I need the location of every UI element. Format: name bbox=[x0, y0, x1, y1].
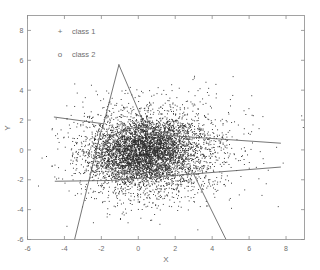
data-point bbox=[145, 193, 146, 194]
data-point bbox=[160, 146, 161, 147]
data-point bbox=[167, 159, 168, 160]
data-point bbox=[181, 197, 182, 198]
data-point bbox=[202, 171, 203, 172]
data-point bbox=[137, 115, 138, 116]
data-point bbox=[156, 181, 157, 182]
data-point bbox=[141, 147, 142, 148]
data-point bbox=[117, 188, 118, 189]
data-point bbox=[115, 178, 116, 179]
data-point bbox=[131, 113, 132, 114]
data-point bbox=[201, 168, 202, 169]
data-point bbox=[160, 139, 161, 140]
data-point bbox=[121, 165, 122, 166]
data-point bbox=[201, 184, 202, 185]
data-point bbox=[191, 190, 192, 191]
data-point bbox=[161, 132, 162, 133]
data-point bbox=[105, 145, 106, 146]
data-point bbox=[158, 178, 159, 179]
data-point bbox=[256, 167, 257, 168]
data-point bbox=[112, 98, 113, 99]
data-point bbox=[147, 110, 148, 111]
data-point bbox=[210, 166, 211, 167]
data-point bbox=[124, 158, 125, 159]
data-point bbox=[76, 168, 77, 169]
data-point bbox=[154, 183, 155, 184]
data-point bbox=[174, 178, 175, 179]
data-point bbox=[146, 133, 147, 134]
data-point bbox=[203, 155, 204, 156]
data-point bbox=[151, 143, 152, 144]
data-point bbox=[74, 145, 75, 146]
data-point bbox=[142, 158, 143, 159]
data-point bbox=[76, 151, 77, 152]
data-point bbox=[198, 159, 199, 160]
data-point bbox=[157, 141, 158, 142]
data-point bbox=[178, 161, 179, 162]
data-point bbox=[131, 176, 132, 177]
data-point bbox=[204, 136, 205, 137]
data-point bbox=[196, 167, 197, 168]
data-point bbox=[177, 171, 178, 172]
data-point bbox=[156, 164, 157, 165]
data-point bbox=[170, 143, 171, 144]
data-point bbox=[143, 129, 144, 130]
data-point bbox=[178, 158, 179, 159]
data-point bbox=[189, 163, 190, 164]
data-point bbox=[183, 127, 184, 128]
data-point bbox=[193, 161, 194, 162]
x-tick-label: 4 bbox=[210, 245, 214, 252]
data-point bbox=[202, 188, 203, 189]
data-point bbox=[134, 153, 135, 154]
data-point bbox=[158, 166, 159, 167]
data-point bbox=[160, 129, 161, 130]
data-point bbox=[127, 157, 128, 158]
data-point bbox=[131, 196, 132, 197]
data-point bbox=[86, 126, 87, 127]
data-point bbox=[175, 133, 176, 134]
data-point bbox=[148, 112, 149, 113]
data-point bbox=[167, 110, 168, 111]
data-point bbox=[83, 166, 84, 167]
data-point bbox=[181, 164, 182, 165]
data-point bbox=[128, 153, 129, 154]
data-point bbox=[152, 174, 153, 175]
data-point bbox=[203, 156, 204, 157]
data-point bbox=[180, 182, 181, 183]
data-point bbox=[153, 102, 154, 103]
data-point bbox=[151, 96, 152, 97]
data-point bbox=[92, 176, 93, 177]
data-point bbox=[161, 167, 162, 168]
data-point bbox=[111, 138, 112, 139]
data-point bbox=[98, 114, 99, 115]
data-point bbox=[115, 189, 116, 190]
data-point bbox=[122, 191, 123, 192]
data-point bbox=[159, 122, 160, 123]
data-point bbox=[173, 133, 174, 134]
data-point bbox=[111, 125, 112, 126]
data-point bbox=[151, 157, 152, 158]
data-point bbox=[148, 156, 149, 157]
data-point bbox=[150, 165, 151, 166]
data-point bbox=[135, 158, 136, 159]
data-point bbox=[192, 170, 193, 171]
data-point bbox=[181, 156, 182, 157]
data-point bbox=[136, 155, 137, 156]
data-point bbox=[144, 140, 145, 141]
data-point bbox=[154, 152, 155, 153]
data-point bbox=[94, 150, 95, 151]
data-point bbox=[191, 144, 192, 145]
data-point bbox=[173, 140, 174, 141]
data-point bbox=[220, 164, 221, 165]
data-point bbox=[129, 130, 130, 131]
data-point bbox=[182, 169, 183, 170]
data-point bbox=[101, 131, 102, 132]
data-point bbox=[122, 149, 123, 150]
data-point bbox=[76, 170, 77, 171]
data-point bbox=[68, 132, 69, 133]
data-point bbox=[126, 184, 127, 185]
data-point bbox=[168, 184, 169, 185]
data-point bbox=[134, 166, 135, 167]
data-point bbox=[151, 167, 152, 168]
data-point bbox=[214, 140, 215, 141]
data-point bbox=[189, 159, 190, 160]
